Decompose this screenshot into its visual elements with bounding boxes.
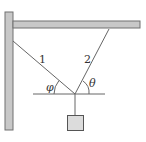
angle-phi-label: φ xyxy=(46,81,54,94)
mass-block xyxy=(68,116,84,131)
rope-1-label: 1 xyxy=(39,53,46,66)
diagram-canvas: 1 2 φ θ xyxy=(0,0,146,142)
rope-1 xyxy=(13,41,75,94)
ceiling-beam xyxy=(13,21,140,28)
wall xyxy=(5,12,13,130)
angle-theta-label: θ xyxy=(89,77,96,90)
angle-arc-phi xyxy=(54,81,59,95)
rope-2-label: 2 xyxy=(84,53,91,66)
